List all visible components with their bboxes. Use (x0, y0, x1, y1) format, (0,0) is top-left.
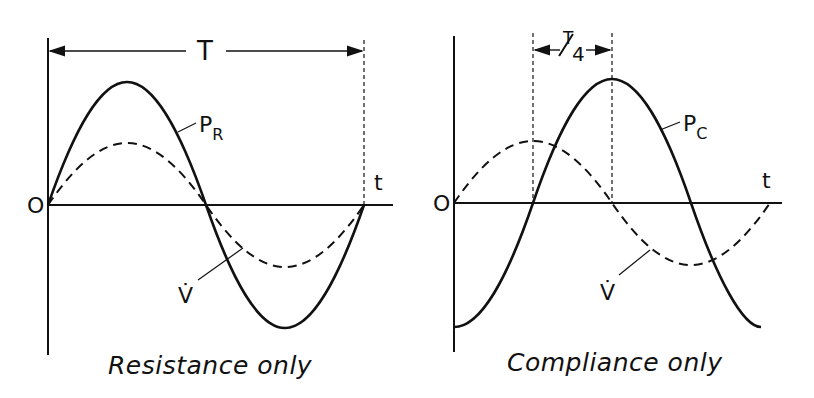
pressure-label-sub: R (212, 125, 223, 144)
v-leader (198, 248, 243, 280)
compliance-panel (454, 33, 782, 352)
phase-shift-denominator: 4 (572, 44, 585, 64)
time-axis-label: t (374, 172, 383, 194)
flow-label: V̇ (600, 282, 615, 304)
pressure-label-pr: PR (199, 114, 223, 136)
diagram-canvas (0, 0, 814, 398)
pc-leader (660, 122, 680, 130)
v-leader (619, 250, 650, 275)
origin-label: O (433, 193, 450, 215)
pr-leader (178, 123, 196, 132)
pressure-label-pc: PC (683, 113, 707, 135)
pressure-label-main: P (683, 111, 696, 136)
time-axis-label: t (762, 170, 771, 192)
origin-label: O (27, 195, 44, 217)
flow-label: V̇ (178, 285, 193, 307)
panel-caption: Compliance only (507, 350, 722, 375)
pressure-label-sub: C (696, 124, 707, 143)
period-label: T (197, 38, 213, 64)
pressure-label-main: P (199, 112, 212, 137)
phase-shift-label: T 4 (560, 30, 588, 74)
resistance-panel (48, 38, 393, 355)
panel-caption: Resistance only (108, 353, 312, 378)
